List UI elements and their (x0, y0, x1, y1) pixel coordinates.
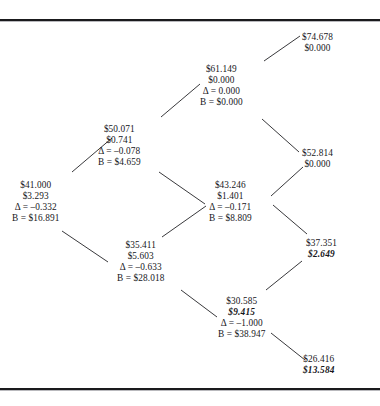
node-delta-n41: Δ = –0.332 (12, 202, 59, 213)
tree-node-n61: $61.149$0.000Δ = 0.000B = $0.000 (200, 64, 243, 108)
tree-edge-n43-n52 (271, 167, 303, 196)
tree-edge-n61-n74 (264, 36, 300, 61)
node-bond-n43: B = $8.809 (209, 213, 252, 224)
node-bond-n41: B = $16.891 (12, 213, 59, 224)
tree-node-n74: $74.678$0.000 (302, 32, 333, 54)
tree-node-n26: $26.416$13.584 (303, 354, 335, 376)
node-value-n30: $9.415 (218, 307, 265, 318)
tree-node-n37: $37.351$2.649 (306, 238, 337, 260)
node-price-n26: $26.416 (303, 354, 335, 365)
node-delta-n50: Δ = –0.078 (98, 146, 141, 157)
tree-node-n35: $35.411$5.603Δ = –0.633B = $28.018 (117, 240, 164, 284)
node-price-n50: $50.071 (98, 124, 141, 135)
tree-node-n50: $50.071$0.741Δ = –0.078B = $4.659 (98, 124, 141, 168)
node-delta-n30: Δ = –1.000 (218, 318, 265, 329)
node-delta-n35: Δ = –0.633 (117, 262, 164, 273)
node-bond-n35: B = $28.018 (117, 273, 164, 284)
node-value-n26: $13.584 (303, 365, 335, 376)
tree-edge-n50-n61 (161, 84, 200, 117)
node-price-n74: $74.678 (302, 32, 333, 43)
binomial-tree-figure: $41.000$3.293Δ = –0.332B = $16.891$50.07… (0, 0, 380, 406)
tree-node-n52: $52.814$0.000 (302, 148, 333, 170)
node-bond-n50: B = $4.659 (98, 157, 141, 168)
node-value-n43: $1.401 (209, 191, 252, 202)
node-price-n37: $37.351 (306, 238, 337, 249)
tree-edge-n30-n37 (266, 261, 302, 290)
tree-node-n30: $30.585$9.415Δ = –1.000B = $38.947 (218, 296, 265, 340)
tree-edge-n50-n43 (159, 172, 205, 204)
node-value-n37: $2.649 (306, 249, 337, 260)
node-bond-n61: B = $0.000 (200, 97, 243, 108)
node-value-n52: $0.000 (302, 159, 333, 170)
tree-edge-n61-n52 (262, 119, 299, 152)
node-delta-n43: Δ = –0.171 (209, 202, 252, 213)
tree-node-n43: $43.246$1.401Δ = –0.171B = $8.809 (209, 180, 252, 224)
node-price-n30: $30.585 (218, 296, 265, 307)
tree-edge-n43-n37 (273, 205, 307, 234)
tree-node-n41: $41.000$3.293Δ = –0.332B = $16.891 (12, 180, 59, 224)
node-value-n41: $3.293 (12, 191, 59, 202)
node-price-n61: $61.149 (200, 64, 243, 75)
node-value-n50: $0.741 (98, 135, 141, 146)
tree-edge-n35-n30 (181, 290, 217, 317)
tree-edge-n30-n26 (271, 333, 305, 360)
node-delta-n61: Δ = 0.000 (200, 86, 243, 97)
node-price-n35: $35.411 (117, 240, 164, 251)
tree-edge-n35-n43 (162, 206, 206, 237)
node-value-n74: $0.000 (302, 43, 333, 54)
node-price-n41: $41.000 (12, 180, 59, 191)
node-price-n43: $43.246 (209, 180, 252, 191)
node-value-n61: $0.000 (200, 75, 243, 86)
tree-edge-n41-n35 (62, 231, 108, 262)
node-value-n35: $5.603 (117, 251, 164, 262)
node-price-n52: $52.814 (302, 148, 333, 159)
node-bond-n30: B = $38.947 (218, 329, 265, 340)
